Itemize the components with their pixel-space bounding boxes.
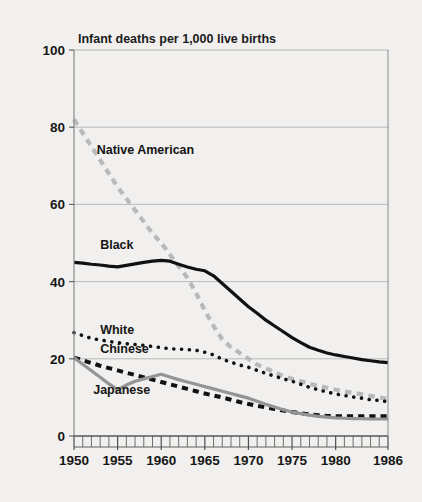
y-tick-label-80: 80 <box>50 120 65 135</box>
x-tick-label-1980: 1980 <box>321 453 351 468</box>
x-tick-label-1955: 1955 <box>103 453 134 468</box>
x-tick-label-1975: 1975 <box>277 453 308 468</box>
x-axis-tick-labels: 19501955196019651970197519801986 <box>59 453 404 468</box>
y-tick-label-100: 100 <box>42 43 65 58</box>
y-tick-label-0: 0 <box>57 429 65 444</box>
y-tick-label-20: 20 <box>50 352 65 367</box>
y-tick-label-60: 60 <box>50 197 65 212</box>
series-label-native-american: Native American <box>97 143 195 157</box>
x-tick-label-1986: 1986 <box>373 453 404 468</box>
y-axis-tick-labels: 020406080100 <box>42 43 65 444</box>
y-tick-label-40: 40 <box>50 275 65 290</box>
chart-title: Infant deaths per 1,000 live births <box>78 32 276 46</box>
figure-container: 020406080100 195019551960196519701975198… <box>0 0 422 502</box>
x-tick-label-1960: 1960 <box>146 453 176 468</box>
infant-mortality-line-chart: 020406080100 195019551960196519701975198… <box>0 0 422 502</box>
x-tick-label-1950: 1950 <box>59 453 89 468</box>
series-label-white: White <box>100 323 134 337</box>
series-label-japanese: Japanese <box>93 383 150 397</box>
x-tick-label-1970: 1970 <box>233 453 263 468</box>
series-label-chinese: Chinese <box>100 342 149 356</box>
x-tick-label-1965: 1965 <box>190 453 221 468</box>
series-label-black: Black <box>100 238 133 252</box>
